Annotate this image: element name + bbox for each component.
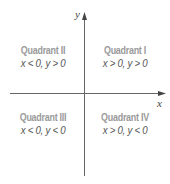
quadrant-1-condition: x > 0, y > 0 (90, 57, 160, 69)
quadrant-4: Quadrant IV x > 0, y < 0 (85, 111, 165, 136)
quadrant-4-condition: x > 0, y < 0 (90, 124, 160, 136)
y-axis-arrow-icon (82, 12, 87, 20)
x-axis-label: x (157, 97, 162, 109)
quadrant-3-condition: x < 0, y < 0 (8, 124, 78, 136)
quadrant-4-title: Quadrant IV (91, 111, 159, 123)
quadrant-1-title: Quadrant I (91, 44, 159, 56)
y-axis-label: y (75, 8, 80, 20)
quadrant-2-condition: x < 0, y > 0 (8, 57, 78, 69)
quadrant-1: Quadrant I x > 0, y > 0 (85, 44, 165, 69)
coordinate-plane (0, 0, 170, 184)
quadrant-3-title: Quadrant III (9, 111, 77, 123)
quadrant-2: Quadrant II x < 0, y > 0 (3, 44, 83, 69)
x-axis-arrow-icon (158, 91, 166, 96)
quadrant-2-title: Quadrant II (9, 44, 77, 56)
quadrant-3: Quadrant III x < 0, y < 0 (3, 111, 83, 136)
